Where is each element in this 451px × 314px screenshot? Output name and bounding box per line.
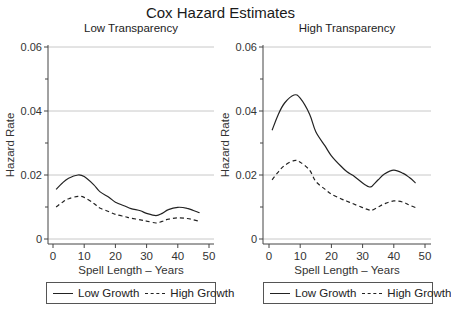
low-growth-line	[272, 95, 416, 187]
solid-line-icon	[53, 293, 73, 294]
legend-label: High Growth	[170, 287, 234, 299]
high-growth-line	[56, 196, 200, 223]
high-growth-line	[272, 160, 416, 210]
legend-label: High Growth	[387, 287, 451, 299]
low-growth-line	[56, 175, 200, 216]
y-tick-label: 0.04	[236, 105, 257, 117]
x-tick-label: 20	[325, 250, 338, 262]
y-tick-label: 0.02	[236, 169, 257, 181]
dashed-line-icon	[145, 293, 165, 294]
x-tick-label: 50	[419, 250, 432, 262]
x-axis-label: Spell Length – Years	[78, 264, 184, 276]
x-tick-label: 10	[294, 250, 307, 262]
solid-line-icon	[270, 293, 290, 294]
y-tick-label: 0	[36, 233, 42, 245]
legend-item-low-growth: Low Growth	[270, 287, 356, 299]
x-tick-label: 50	[203, 250, 216, 262]
legend-label: Low Growth	[295, 287, 356, 299]
legend-item-high-growth: High Growth	[145, 287, 234, 299]
y-tick-label: 0.04	[21, 105, 42, 117]
x-tick-label: 30	[140, 250, 153, 262]
x-tick-label: 0	[50, 250, 56, 262]
y-axis-label: Hazard Rate	[4, 113, 16, 178]
y-axis-label: Hazard Rate	[219, 113, 231, 178]
y-tick-label: 0	[251, 233, 257, 245]
x-tick-label: 40	[171, 250, 184, 262]
legend-label: Low Growth	[78, 287, 139, 299]
y-tick-label: 0.06	[236, 41, 257, 53]
legend-item-high-growth: High Growth	[362, 287, 451, 299]
legend-high-transparency: Low Growth High Growth	[263, 282, 433, 304]
panel-title: High Transparency	[299, 22, 396, 34]
x-tick-label: 20	[109, 250, 122, 262]
y-tick-label: 0.02	[21, 169, 42, 181]
x-tick-label: 0	[266, 250, 272, 262]
legend-item-low-growth: Low Growth	[53, 287, 139, 299]
panel-title: Low Transparency	[84, 22, 178, 34]
y-tick-label: 0.06	[21, 41, 42, 53]
x-axis-label: Spell Length – Years	[294, 264, 400, 276]
dashed-line-icon	[362, 293, 382, 294]
x-tick-label: 40	[387, 250, 400, 262]
x-tick-label: 10	[78, 250, 91, 262]
x-tick-label: 30	[356, 250, 369, 262]
legend-low-transparency: Low Growth High Growth	[46, 282, 216, 304]
